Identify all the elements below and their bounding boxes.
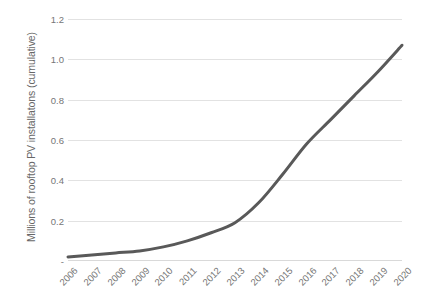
x-axis-tick-label: 2020 bbox=[386, 265, 414, 293]
x-axis-tick-label: 2010 bbox=[148, 265, 176, 293]
x-axis-tick-label: 2015 bbox=[267, 265, 295, 293]
x-axis-tick-label: 2018 bbox=[338, 265, 366, 293]
y-axis-tick-label: 0.4 bbox=[34, 175, 64, 186]
line-chart: Millions of rooftop PV installatons (cum… bbox=[0, 0, 425, 302]
y-axis-tick-label: - bbox=[34, 256, 64, 267]
x-axis-tick-label: 2019 bbox=[362, 265, 390, 293]
x-axis-tick-label: 2016 bbox=[291, 265, 319, 293]
x-axis-tick-label: 2012 bbox=[195, 265, 223, 293]
x-axis-tick-label: 2017 bbox=[315, 265, 343, 293]
plot-area bbox=[68, 19, 402, 261]
y-axis-tick-label: 1.0 bbox=[34, 54, 64, 65]
x-axis-tick-label: 2011 bbox=[171, 265, 199, 293]
x-axis-tick-label: 2014 bbox=[243, 265, 271, 293]
y-axis-tick-label: 0.8 bbox=[34, 94, 64, 105]
y-axis-tick-label: 1.2 bbox=[34, 14, 64, 25]
x-axis-tick-label: 2008 bbox=[100, 265, 128, 293]
x-axis-tick-labels: 2006200720082009201020112012201320142015… bbox=[68, 261, 402, 302]
y-axis-tick-labels: -0.20.40.60.81.01.2 bbox=[34, 0, 64, 302]
y-axis-tick-label: 0.2 bbox=[34, 215, 64, 226]
y-axis-tick-label: 0.6 bbox=[34, 135, 64, 146]
series-line bbox=[68, 19, 402, 261]
x-axis-tick-label: 2009 bbox=[124, 265, 152, 293]
x-axis-tick-label: 2007 bbox=[76, 265, 104, 293]
x-axis-tick-label: 2013 bbox=[219, 265, 247, 293]
series-path-cumulative-pv bbox=[68, 45, 402, 257]
